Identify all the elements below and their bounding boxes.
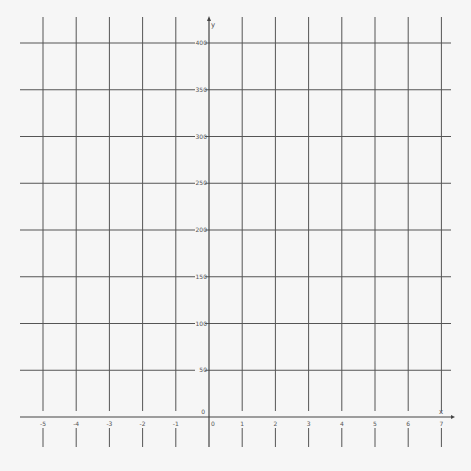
x-tick-label: 2	[273, 420, 277, 427]
x-tick-label: -3	[106, 420, 112, 427]
y-tick-label: 300	[196, 133, 208, 140]
x-tick-label: 6	[406, 420, 410, 427]
x-tick-label: 1	[240, 420, 244, 427]
y-tick-labels: 050100150200250300350400	[196, 39, 208, 415]
y-tick-label: 250	[196, 179, 208, 186]
y-tick-label: 0	[201, 408, 205, 415]
x-tick-label: -4	[73, 420, 79, 427]
x-axis-arrow-icon	[451, 415, 455, 419]
y-tick-label: 350	[196, 86, 208, 93]
y-tick-label: 400	[196, 39, 208, 46]
x-axis-label: x	[439, 408, 443, 416]
y-tick-label: 150	[196, 273, 208, 280]
coordinate-grid: x y -5-4-3-2-101234567 05010015020025030…	[0, 0, 471, 471]
y-tick-label: 100	[196, 320, 208, 327]
vertical-gridlines	[43, 17, 441, 447]
x-tick-label: -2	[140, 420, 146, 427]
horizontal-gridlines	[20, 43, 451, 370]
y-axis-label: y	[211, 21, 215, 29]
x-tick-label: -5	[40, 420, 46, 427]
x-tick-labels: -5-4-3-2-101234567	[40, 420, 443, 427]
y-tick-label: 200	[196, 226, 208, 233]
x-tick-label: 3	[307, 420, 311, 427]
x-tick-label: 7	[439, 420, 443, 427]
x-tick-label: 5	[373, 420, 377, 427]
x-tick-label: 4	[340, 420, 344, 427]
x-tick-label: 0	[211, 420, 215, 427]
x-tick-label: -1	[173, 420, 179, 427]
y-tick-label: 50	[199, 366, 207, 373]
axes: x y	[20, 16, 455, 447]
